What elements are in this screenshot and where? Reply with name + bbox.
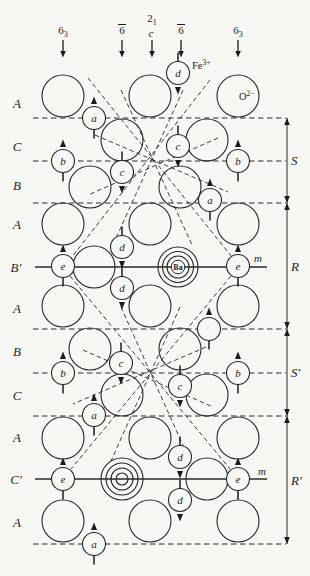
oxygen-ion — [217, 417, 259, 459]
axis-down-arrow-icon — [60, 51, 66, 58]
mirror-label-top: m — [254, 252, 262, 264]
oxygen-ion — [42, 500, 84, 542]
fe-site-letter: c — [178, 380, 183, 392]
fe-site-letter: a — [91, 538, 97, 550]
oxygen-ion — [217, 500, 259, 542]
layer-label-Cp: C′ — [10, 472, 22, 487]
layer-label-Bp: B′ — [11, 260, 22, 275]
fe-site-letter: a — [91, 409, 97, 421]
axis-label-6bar-left: 6 — [119, 24, 125, 36]
spin-up-arrow-icon — [91, 523, 97, 531]
fe-site-letter: a — [91, 112, 97, 124]
fe-site-letter: d — [177, 494, 183, 506]
spin-up-arrow-icon — [91, 394, 97, 402]
fe-site-letter: c — [119, 357, 124, 369]
fe-site-e: e — [52, 458, 75, 500]
block-label: S′ — [291, 365, 301, 380]
layer-label-A3: A — [12, 301, 21, 316]
layer-label-A5: A — [12, 515, 21, 530]
oxygen-ion — [42, 417, 84, 459]
axis-down-arrow-icon — [178, 51, 184, 58]
layer-label-B1: B — [13, 178, 21, 193]
fe-site-letter: b — [235, 367, 241, 379]
spin-up-arrow-icon — [235, 140, 241, 148]
fe-site-letter: d — [119, 241, 125, 253]
oxygen-ion — [186, 119, 228, 161]
oxygen-layer-circles — [42, 75, 259, 542]
spin-up-arrow-icon — [235, 245, 241, 253]
bracket-arrow-up-icon — [284, 118, 290, 125]
barium-label: Ba — [173, 263, 182, 272]
axis-label-21: 21 — [147, 12, 157, 27]
oxygen-ion — [217, 203, 259, 245]
oxygen-ion — [42, 203, 84, 245]
oxygen-ion — [217, 285, 259, 327]
crystal-structure-diagram: SRS′R′ Ba dacbbcadeedcbbcadeeda 63 6 21 … — [0, 0, 310, 576]
axis-label-c: c — [149, 27, 154, 39]
fe-site-a: a — [83, 523, 106, 565]
oxygen-ion — [129, 285, 171, 327]
layer-label-B2: B — [13, 344, 21, 359]
layer-label-C2: C — [13, 388, 22, 403]
fe-site-e: e — [52, 245, 75, 287]
spin-up-arrow-icon — [207, 179, 213, 187]
spin-up-arrow-icon — [206, 308, 212, 316]
fe-site-letter: e — [236, 260, 241, 272]
block-label: R — [290, 259, 299, 274]
fe-site-letter: d — [119, 282, 125, 294]
spin-up-arrow-icon — [235, 352, 241, 360]
block-label: S — [291, 153, 298, 168]
oxygen-ion — [186, 374, 228, 416]
spin-up-arrow-icon — [91, 97, 97, 105]
layer-label-A2: A — [12, 217, 21, 232]
fe-site-letter: b — [60, 155, 66, 167]
spin-up-arrow-icon — [60, 245, 66, 253]
fe-site-e: e — [227, 245, 250, 287]
axis-label-63-right: 63 — [233, 24, 243, 39]
fe-site-letter: b — [235, 155, 241, 167]
bracket-arrow-up-icon — [284, 329, 290, 336]
layer-label-A4: A — [12, 430, 21, 445]
block-extent-bracket: SRS′R′ — [284, 118, 302, 544]
figure-page: SRS′R′ Ba dacbbcadeedcbbcadeeda 63 6 21 … — [0, 0, 310, 576]
bracket-arrow-up-icon — [284, 416, 290, 423]
fe-site-letter: e — [61, 473, 66, 485]
fe-site-letter: e — [236, 473, 241, 485]
fe-site-letter: e — [61, 260, 66, 272]
spin-down-arrow-icon — [177, 514, 183, 522]
oxygen-ion — [129, 203, 171, 245]
axis-down-arrow-icon — [119, 51, 125, 58]
fe-site-letter: a — [207, 194, 213, 206]
fe-ion-label: Fe3+ — [192, 58, 210, 72]
fe-site-b: b — [227, 352, 250, 394]
axis-label-63-left: 63 — [58, 24, 68, 39]
oxygen-ion — [129, 75, 171, 117]
oxygen-ion — [69, 328, 111, 370]
layer-label-A1: A — [12, 96, 21, 111]
block-label: R′ — [290, 473, 302, 488]
oxygen-ion — [69, 166, 111, 208]
fe-site-b: b — [52, 140, 75, 182]
fe-site-circle — [198, 318, 221, 341]
fe-site-letter: b — [60, 367, 66, 379]
spin-down-arrow-icon — [177, 471, 183, 479]
spin-up-arrow-icon — [60, 352, 66, 360]
fe-site-letter: c — [176, 140, 181, 152]
fe-site-letter: d — [177, 451, 183, 463]
spin-down-arrow-icon — [119, 302, 125, 310]
fe-site-unlabeled — [198, 308, 221, 350]
oxygen-ion — [129, 500, 171, 542]
bracket-arrow-down-icon — [284, 409, 290, 416]
oxygen-ion — [129, 417, 171, 459]
bracket-arrow-down-icon — [284, 322, 290, 329]
layer-label-C1: C — [13, 139, 22, 154]
oxygen-ion — [159, 328, 201, 370]
oxygen-ion — [42, 75, 84, 117]
bracket-arrow-up-icon — [284, 203, 290, 210]
fe-site-letter: d — [175, 67, 181, 79]
mirror-label-bottom: m — [258, 465, 266, 477]
fe-site-letter: c — [120, 166, 125, 178]
bracket-arrow-down-icon — [284, 196, 290, 203]
fe-site-b: b — [227, 140, 250, 182]
spin-down-arrow-icon — [175, 87, 181, 95]
